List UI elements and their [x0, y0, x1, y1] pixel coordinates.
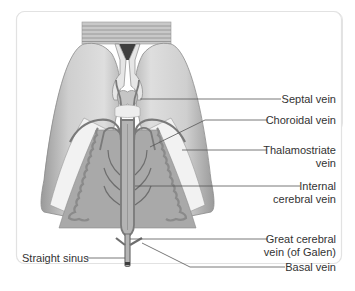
label-thalamostriate-vein: Thalamostriate vein [263, 144, 336, 169]
label-thalamostriate-line2: vein [263, 157, 336, 170]
label-great-cerebral-line1: Great cerebral [264, 233, 336, 246]
label-great-cerebral-line2: vein (of Galen) [264, 246, 336, 259]
corpus-callosum-genu [82, 22, 171, 44]
label-choroidal-vein: Choroidal vein [266, 114, 336, 127]
label-basal-vein: Basal vein [285, 261, 336, 274]
label-thalamostriate-line1: Thalamostriate [263, 144, 336, 157]
straight-sinus [125, 234, 130, 267]
label-great-cerebral-vein: Great cerebral vein (of Galen) [264, 233, 336, 258]
label-septal-vein: Septal vein [282, 93, 336, 106]
label-straight-sinus: Straight sinus [22, 252, 89, 265]
label-internal-cerebral-line2: cerebral vein [273, 193, 336, 206]
label-internal-cerebral-vein: Internal cerebral vein [273, 180, 336, 205]
label-internal-cerebral-line1: Internal [273, 180, 336, 193]
